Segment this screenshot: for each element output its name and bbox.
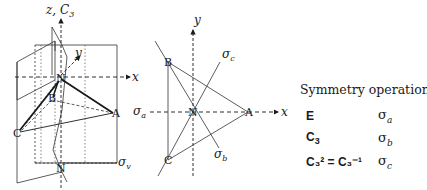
sigma-v-label: σv xyxy=(118,155,131,171)
ops-row: C3 σb xyxy=(300,127,427,150)
op-sigma-b: σb xyxy=(378,130,393,148)
sigma-b-label: σb xyxy=(214,147,227,163)
y-axis-label: y xyxy=(74,46,82,60)
right-topview-diagram: y x N A B C σa σb σc xyxy=(133,13,288,176)
z-axis-label: z, C3 xyxy=(45,3,74,19)
symmetry-operations-panel: Symmetry operations: E σa C3 σb C₃² = C₃… xyxy=(300,82,427,173)
ops-row: E σa xyxy=(300,104,427,127)
atom-N-top: N xyxy=(56,72,66,85)
atom-A: A xyxy=(111,107,121,120)
x-axis-2d-label: x xyxy=(281,105,288,119)
atom-A-2d: A xyxy=(244,106,254,119)
sigma-c-label: σc xyxy=(222,47,235,63)
atom-B: B xyxy=(48,92,56,105)
panel-title: Symmetry operations: xyxy=(300,82,427,97)
atom-B-2d: B xyxy=(164,56,172,69)
op-sigma-a: σa xyxy=(378,107,392,125)
op-sigma-c: σc xyxy=(378,153,392,171)
op-identity: E xyxy=(300,109,378,123)
y-axis-2d-label: y xyxy=(193,13,201,27)
x-axis-label: x xyxy=(132,70,139,84)
op-c3-squared: C₃² = C₃⁻¹ xyxy=(300,155,378,169)
atom-C: C xyxy=(13,127,21,140)
atom-N-2d: N xyxy=(188,106,198,119)
atom-C-2d: C xyxy=(164,154,172,167)
ops-row: C₃² = C₃⁻¹ σc xyxy=(300,150,427,173)
sigma-a-label: σa xyxy=(133,104,146,120)
edge-C-A xyxy=(20,113,113,132)
bond-N-A xyxy=(61,79,113,113)
left-3d-diagram: z, C3 y x N N A B C σv xyxy=(13,3,139,188)
edge-B-A xyxy=(168,62,248,112)
op-c3: C3 xyxy=(300,130,378,146)
atom-N-bottom: N xyxy=(56,162,66,175)
